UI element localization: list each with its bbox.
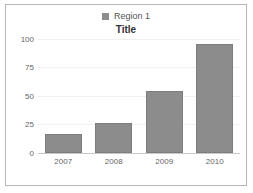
y-tick-label: 75 [8,64,34,72]
bar [196,44,233,153]
y-tick-label: 100 [8,36,34,44]
chart-legend: Region 1 [6,11,246,21]
x-axis-line [38,153,240,154]
bar-group [38,39,240,153]
y-axis: 100 75 50 25 0 [6,39,34,153]
x-tick-label: 2009 [146,157,183,167]
y-tick-label: 0 [8,150,34,158]
x-axis: 2007 2008 2009 2010 [38,157,240,167]
legend-item-label: Region 1 [114,11,150,21]
bar [146,91,183,153]
x-tick-label: 2010 [196,157,233,167]
legend-swatch-icon [102,13,109,20]
y-tick-label: 25 [8,121,34,129]
x-tick-label: 2007 [45,157,82,167]
x-tick-label: 2008 [95,157,132,167]
chart-title: Title [6,24,246,36]
bar [45,134,82,153]
chart-frame: Region 1 Title 100 75 50 25 0 2007 2008 … [5,4,247,186]
y-tick-label: 50 [8,93,34,101]
bar [95,123,132,153]
